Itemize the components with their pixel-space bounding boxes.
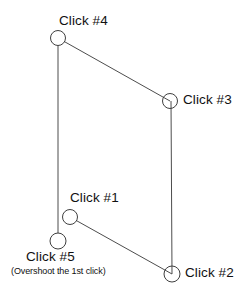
click-node-label-click1: Click #1	[70, 191, 119, 205]
click5-overshoot-note: (Overshoot the 1st click)	[11, 267, 106, 276]
click-node-click5[interactable]	[50, 233, 66, 249]
click-node-click4[interactable]	[51, 31, 66, 46]
click-node-label-click2: Click #2	[185, 266, 234, 280]
click-node-label-click3: Click #3	[183, 93, 232, 107]
segment-click3-to-click4	[58, 38, 170, 101]
click-node-click1[interactable]	[63, 210, 78, 225]
diagram-canvas: Click #4 Click #3 Click #1 Click #5 (Ove…	[0, 0, 249, 299]
click-node-label-click5: Click #5	[26, 250, 75, 264]
click-nodes	[50, 31, 180, 283]
path-segments	[58, 38, 172, 274]
segment-click2-to-click3	[171, 101, 172, 274]
click-node-label-click4: Click #4	[59, 14, 108, 28]
